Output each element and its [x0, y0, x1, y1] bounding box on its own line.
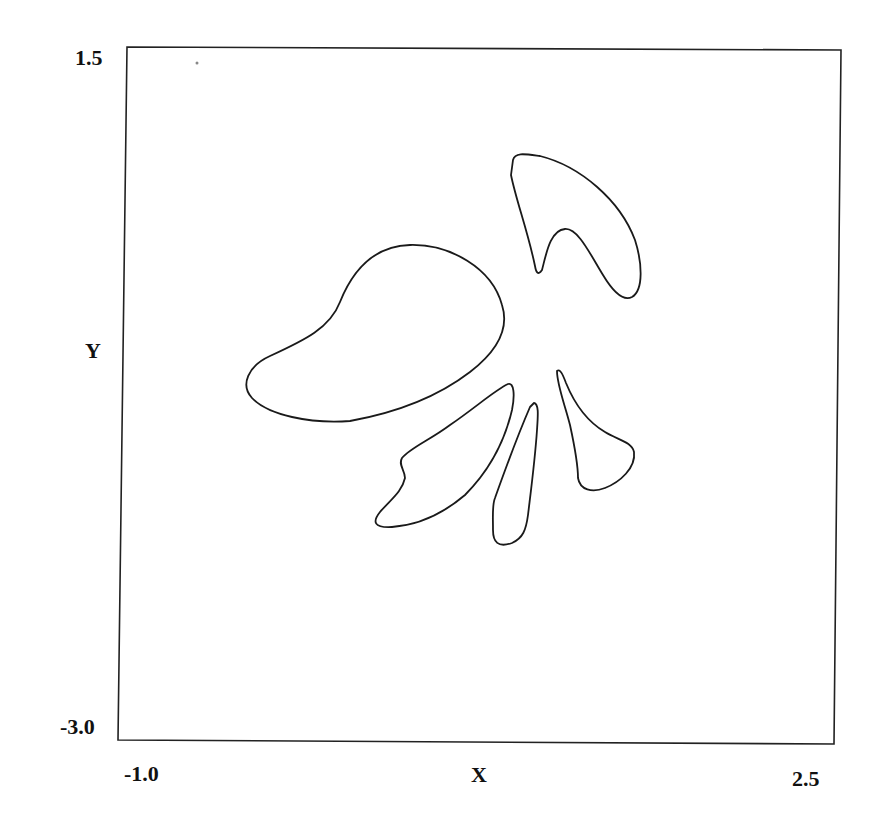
plot-area	[0, 0, 883, 830]
x-tick-right: 2.5	[792, 768, 820, 790]
y-tick-bottom: -3.0	[60, 716, 95, 738]
curve-right-teardrop	[557, 370, 634, 490]
y-axis-label: Y	[85, 340, 101, 362]
x-tick-left: -1.0	[124, 763, 159, 785]
curve-middle-sliver	[493, 403, 538, 545]
curve-large-blob	[246, 245, 504, 422]
y-tick-top: 1.5	[75, 47, 103, 69]
x-axis-label: X	[471, 764, 487, 786]
plot-frame	[118, 47, 841, 744]
speck-dot	[196, 62, 199, 65]
curve-upper-right-hook	[511, 154, 641, 298]
